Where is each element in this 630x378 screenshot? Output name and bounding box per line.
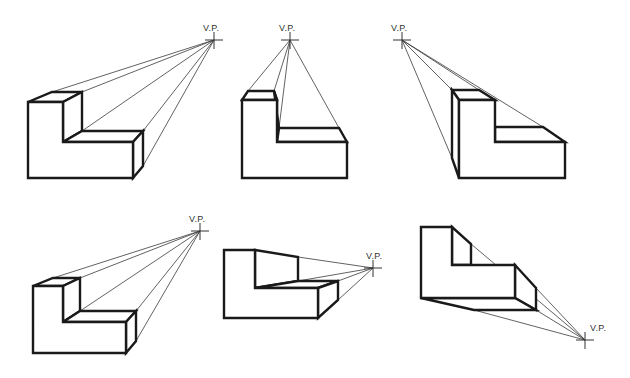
figure-2: V.P. [242, 23, 347, 178]
projection-line [298, 268, 373, 281]
vp-label: V.P. [279, 23, 295, 33]
vanishing-point-cross-icon [205, 32, 223, 49]
vp-label: V.P. [391, 23, 407, 33]
receding-face [277, 128, 347, 142]
projection-line [136, 231, 200, 341]
projection-line [474, 310, 585, 340]
projection-line [290, 40, 339, 128]
perspective-diagram: V.P.V.P.V.P.V.P.V.P.V.P. [0, 0, 630, 378]
receding-face [318, 281, 338, 318]
figure-3: V.P. [391, 23, 565, 178]
figure-5: V.P. [224, 250, 382, 318]
projection-line [143, 40, 214, 166]
figure-4: V.P. [33, 214, 209, 353]
vanishing-point-cross-icon [191, 223, 209, 240]
projection-line [536, 288, 585, 340]
projection-line [248, 40, 290, 91]
vp-label: V.P. [590, 323, 606, 333]
receding-face [452, 227, 471, 265]
projection-line [402, 40, 452, 90]
figure-6: V.P. [421, 227, 606, 349]
projection-line [338, 268, 373, 281]
projection-line [274, 40, 290, 91]
receding-face [421, 298, 536, 310]
receding-face [495, 127, 565, 142]
projection-line [82, 40, 214, 131]
vp-label: V.P. [366, 251, 382, 261]
vp-label: V.P. [189, 214, 205, 224]
figure-1: V.P. [28, 23, 223, 178]
projection-line [52, 40, 214, 92]
vanishing-point-cross-icon [364, 260, 382, 277]
receding-face [242, 91, 277, 100]
vanishing-point-cross-icon [281, 32, 299, 49]
projection-line [136, 231, 200, 311]
vp-label: V.P. [203, 23, 219, 33]
projection-line [279, 40, 290, 128]
projection-line [53, 231, 200, 278]
projection-line [402, 40, 452, 158]
projection-line [298, 257, 373, 268]
